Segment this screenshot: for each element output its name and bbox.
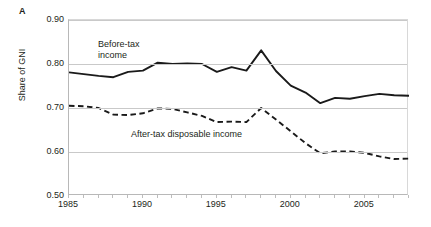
gridline xyxy=(69,20,407,21)
x-tick-label: 1985 xyxy=(58,199,78,209)
x-tick-label: 1990 xyxy=(132,199,152,209)
x-tick-label: 2005 xyxy=(354,199,374,209)
annotation-after-tax-disposable-income: After-tax disposable income xyxy=(131,129,242,140)
gridline xyxy=(69,152,407,153)
annotation-before-tax-income: Before-tax income xyxy=(98,39,140,61)
x-tick-label: 1995 xyxy=(206,199,226,209)
gridline xyxy=(69,108,407,109)
x-tick-label: 2000 xyxy=(280,199,300,209)
gridline xyxy=(69,64,407,65)
figure-panel-a: A Share of GNI 0.900.800.700.600.50 1985… xyxy=(0,0,431,227)
